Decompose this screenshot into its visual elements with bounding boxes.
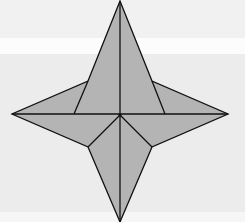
origami-star-icon bbox=[0, 0, 245, 222]
center-point bbox=[118, 113, 121, 116]
star-diagram bbox=[0, 0, 245, 222]
